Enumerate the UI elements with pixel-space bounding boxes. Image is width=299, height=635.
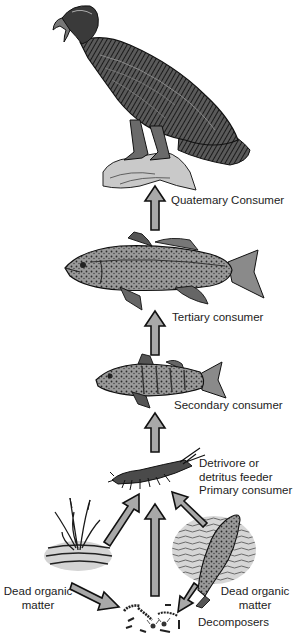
arrow-fish-to-decomposers bbox=[178, 583, 198, 612]
label-tertiary-consumer: Tertiary consumer bbox=[172, 311, 263, 325]
arrow-bass-to-eagle bbox=[145, 186, 165, 230]
label-right-line-2: matter bbox=[217, 599, 293, 613]
label-dead-organic-matter-left: Dead organic matter bbox=[2, 585, 74, 612]
label-right-line-1: Dead organic bbox=[217, 585, 293, 599]
label-quaternary-consumer: Quatemary Consumer bbox=[171, 194, 284, 208]
label-primary-line-2: detritus feeder bbox=[199, 471, 292, 485]
label-left-line-1: Dead organic bbox=[2, 585, 74, 599]
label-dead-organic-matter-right: Dead organic matter bbox=[217, 585, 293, 612]
arrow-decomposers-to-crayfish bbox=[145, 504, 165, 596]
bass-illustration bbox=[65, 232, 264, 310]
arrow-crayfish-to-perch bbox=[145, 413, 165, 452]
label-primary-line-1: Detrivore or bbox=[199, 457, 292, 471]
label-left-line-2: matter bbox=[2, 599, 74, 613]
label-decomposers: Decomposers bbox=[198, 616, 269, 630]
eagle-illustration bbox=[53, 6, 250, 190]
arrow-plant-to-crayfish bbox=[104, 494, 139, 546]
arrow-plant-to-decomposers bbox=[70, 583, 119, 610]
label-secondary-consumer: Secondary consumer bbox=[174, 399, 283, 413]
label-primary-consumer: Detrivore or detritus feeder Primary con… bbox=[199, 457, 292, 498]
label-primary-line-3: Primary consumer bbox=[199, 484, 292, 498]
arrow-perch-to-bass bbox=[145, 311, 165, 355]
crayfish-illustration bbox=[108, 448, 205, 490]
food-chain-diagram: Quatemary Consumer Tertiary consumer Sec… bbox=[0, 0, 299, 635]
decomposers-illustration bbox=[124, 604, 180, 632]
dead-plant-illustration bbox=[44, 498, 112, 571]
